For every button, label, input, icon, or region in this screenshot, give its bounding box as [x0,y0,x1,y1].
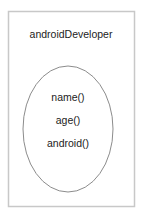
methods-ellipse [23,66,113,192]
method-label: name() [51,91,84,103]
class-diagram: androidDeveloper name() age() android() [0,0,142,217]
method-label: age() [56,114,81,126]
class-name-label: androidDeveloper [30,28,113,40]
method-label: android() [47,137,89,149]
